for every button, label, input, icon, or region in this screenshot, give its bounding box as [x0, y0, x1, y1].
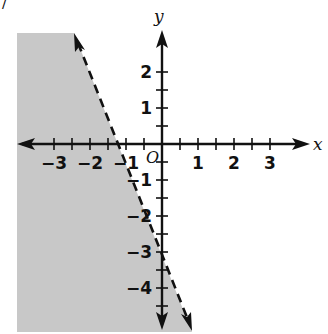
x-tick-label: −3 — [41, 153, 67, 173]
cropped-problem-number-fragment: / — [2, 0, 7, 11]
x-tick-label: 1 — [192, 153, 204, 173]
shaded-solution-region — [17, 33, 192, 332]
x-tick-label: 2 — [228, 153, 240, 173]
y-tick-label: −4 — [126, 278, 152, 298]
inequality-graph: / −3−2−1123 21−1−2−3−4 x y O — [0, 0, 328, 334]
x-tick-label: 3 — [264, 153, 276, 173]
y-tick-label: −3 — [126, 242, 152, 262]
origin-label: O — [146, 148, 159, 167]
y-tick-label: −1 — [126, 170, 152, 190]
y-axis-label: y — [153, 6, 164, 26]
x-tick-label: −2 — [77, 153, 103, 173]
y-tick-label: 2 — [140, 62, 152, 82]
y-tick-label: 1 — [140, 98, 152, 118]
fragment-text: / — [2, 0, 7, 11]
x-axis-label: x — [313, 134, 323, 154]
y-tick-label: −2 — [126, 206, 152, 226]
